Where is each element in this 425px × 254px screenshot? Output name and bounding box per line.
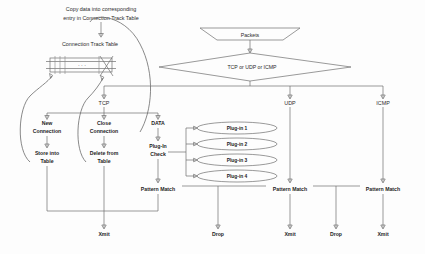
protocol-udp-label: UDP: [284, 100, 296, 106]
protocol-icmp-label: ICMP: [376, 100, 390, 106]
protocol-tcp-label: TCP: [99, 100, 110, 106]
tcp-branch-0-line1: New: [42, 120, 54, 126]
protocol-classifier-label: TCP or UDP or ICMP: [227, 64, 277, 70]
terminal-udp-xmit: Xmit: [284, 231, 296, 237]
terminal-icmp-xmit: Xmit: [377, 231, 389, 237]
plugin-0-label[interactable]: Plug-in 1: [227, 126, 248, 131]
pattern-match-icmp-label: Pattern Match: [366, 186, 400, 192]
caption-line-1: Copy data into corresponding: [66, 6, 136, 12]
tcp-branch-0-line2: Connection: [33, 128, 62, 134]
tcp-action-0-line1: Store into: [35, 150, 59, 156]
terminal-drop-1: Drop: [212, 231, 224, 237]
tcp-action-2-line2: Check: [150, 151, 166, 157]
classifier-bus: [102, 81, 385, 99]
udp-icmp-xmit-lines: [288, 194, 385, 229]
table-ellipsis: · · ·: [78, 62, 86, 68]
udp-icmp-verticals: [288, 107, 385, 183]
plugin-check-to-pattern-match: [156, 159, 160, 183]
terminal-tcp-xmit: Xmit: [98, 231, 110, 237]
plugin-1-label[interactable]: Plug-in 2: [227, 142, 248, 147]
connection-track-table-label: Connection Track Table: [62, 41, 118, 47]
packet-flow-diagram: Copy data into corresponding entry in Co…: [0, 0, 425, 254]
packets-label: Packets: [241, 32, 260, 38]
pattern-match-tcp-label: Pattern Match: [141, 186, 175, 192]
tcp-action-0-line2: Table: [40, 158, 53, 164]
plugin-bus: [168, 126, 197, 178]
feedback-curves: [20, 17, 150, 162]
tcp-action-1-line2: Table: [97, 158, 110, 164]
pattern-match-drop-links: [182, 186, 360, 229]
connection-track-table-graphic: · · ·: [46, 56, 116, 76]
pattern-match-udp-label: Pattern Match: [273, 186, 307, 192]
tcp-branch-bus: [45, 107, 160, 120]
plugin-3-label[interactable]: Plug-in 4: [227, 174, 248, 179]
terminal-drop-2: Drop: [330, 231, 342, 237]
tcp-branch-1-line2: Connection: [90, 128, 119, 134]
tcp-branch-1-line1: Close: [97, 120, 111, 126]
plugin-2-label[interactable]: Plug-in 3: [227, 158, 248, 163]
tcp-xmit-merge: [47, 166, 158, 229]
tcp-action-1-line1: Delete from: [90, 150, 119, 156]
tcp-action-2-line1: Plug-In: [149, 143, 167, 149]
plugin-ellipses: [197, 122, 277, 182]
tcp-branch-2-line1: DATA: [151, 120, 165, 126]
